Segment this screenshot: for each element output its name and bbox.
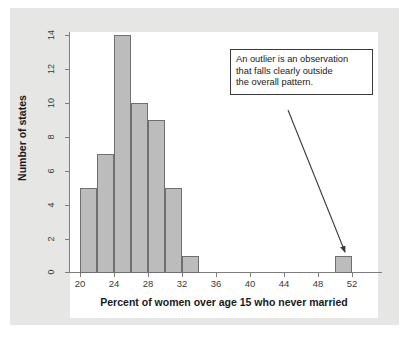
histogram-figure: 14 12 10 8 6 4 2 0 Number of states 20 2… [0, 0, 409, 340]
outlier-annotation-box: An outlier is an observation that falls … [230, 49, 373, 95]
y-tick-0 [65, 272, 69, 273]
histogram-bar [131, 103, 148, 273]
x-tick-48 [318, 273, 319, 277]
y-axis-line [69, 32, 70, 273]
y-axis-title: Number of states [16, 78, 28, 198]
annotation-line-2: that falls clearly outside [236, 66, 367, 78]
y-tick-label-10: 10 [46, 92, 56, 114]
y-tick-12 [65, 69, 69, 70]
histogram-bar [80, 188, 97, 273]
y-tick-2 [65, 239, 69, 240]
annotation-line-1: An outlier is an observation [236, 54, 367, 66]
x-tick-36 [216, 273, 217, 277]
y-tick-6 [65, 171, 69, 172]
y-tick-label-12: 12 [46, 58, 56, 80]
x-tick-label-32: 32 [169, 278, 195, 289]
histogram-bar [165, 188, 182, 273]
x-tick-44 [284, 273, 285, 277]
x-tick-28 [148, 273, 149, 277]
x-tick-label-28: 28 [135, 278, 161, 289]
y-tick-8 [65, 137, 69, 138]
x-tick-20 [80, 273, 81, 277]
x-tick-label-40: 40 [237, 278, 263, 289]
y-tick-label-0: 0 [46, 261, 56, 283]
x-tick-label-44: 44 [271, 278, 297, 289]
histogram-bar [114, 35, 131, 273]
histogram-bar-outlier [335, 256, 352, 273]
x-tick-label-48: 48 [305, 278, 331, 289]
histogram-bar [148, 120, 165, 273]
x-tick-label-20: 20 [67, 278, 93, 289]
x-tick-52 [352, 273, 353, 277]
x-tick-32 [182, 273, 183, 277]
y-tick-label-8: 8 [46, 126, 56, 148]
y-tick-label-6: 6 [46, 160, 56, 182]
x-tick-24 [114, 273, 115, 277]
histogram-bar [182, 256, 199, 273]
y-tick-14 [65, 35, 69, 36]
x-tick-label-52: 52 [339, 278, 365, 289]
x-axis-title: Percent of women over age 15 who never m… [70, 296, 378, 308]
x-tick-40 [250, 273, 251, 277]
y-tick-10 [65, 103, 69, 104]
annotation-line-3: the overall pattern. [236, 77, 367, 89]
y-tick-label-14: 14 [46, 24, 56, 46]
x-tick-label-36: 36 [203, 278, 229, 289]
y-tick-4 [65, 205, 69, 206]
y-tick-label-2: 2 [46, 228, 56, 250]
x-tick-label-24: 24 [101, 278, 127, 289]
y-tick-label-4: 4 [46, 194, 56, 216]
histogram-bar [97, 154, 114, 273]
